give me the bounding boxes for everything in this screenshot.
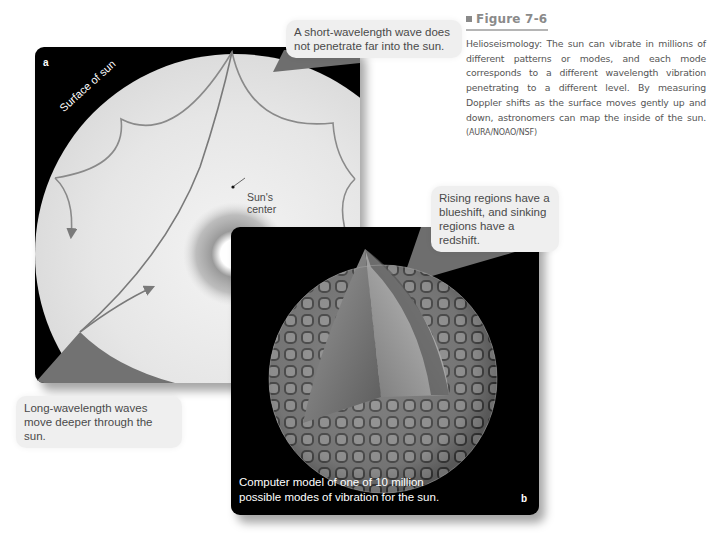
callout-long-wavelength: Long-wavelength waves move deeper throug…	[16, 396, 182, 448]
square-bullet-icon	[466, 16, 472, 22]
figure-number-label: Figure 7-6	[476, 12, 547, 26]
callout-short-wavelength-line1: A short-wavelength wave does	[294, 25, 454, 39]
panel-b-vibration-model: Computer model of one of 10 million poss…	[231, 227, 539, 515]
model-caption-line1: Computer model of one of 10 million	[239, 475, 439, 490]
panel-b-letter: b	[521, 493, 527, 504]
sun-vibration-sphere	[231, 227, 539, 515]
callout-short-wavelength-line2: not penetrate far into the sun.	[294, 39, 454, 53]
figure-caption-block: Figure 7-6 Helioseismology: The sun can …	[466, 12, 706, 141]
panel-a-letter: a	[43, 57, 49, 68]
sun-center-label: Sun's center	[247, 191, 276, 215]
figure-caption-text: Helioseismology: The sun can vibrate in …	[466, 37, 706, 141]
callout-long-wavelength-line1: Long-wavelength waves	[24, 401, 174, 415]
callout-doppler-line3: regions have a redshift.	[439, 219, 551, 247]
sun-center-label-line1: Sun's	[247, 191, 276, 203]
model-caption-line2: possible modes of vibration for the sun.	[239, 490, 439, 505]
figure-title-rule	[466, 29, 548, 31]
callout-doppler-line2: blueshift, and sinking	[439, 205, 551, 219]
caption-body: Helioseismology: The sun can vibrate in …	[466, 38, 706, 123]
callout-doppler-shift: Rising regions have a blueshift, and sin…	[431, 186, 559, 252]
sun-center-label-line2: center	[247, 203, 276, 215]
callout-doppler-line1: Rising regions have a	[439, 191, 551, 205]
model-caption: Computer model of one of 10 million poss…	[239, 475, 439, 505]
figure-number: Figure 7-6	[466, 12, 706, 26]
callout-long-wavelength-line2: move deeper through the sun.	[24, 415, 174, 443]
callout-short-wavelength: A short-wavelength wave does not penetra…	[286, 20, 462, 58]
caption-credit: (AURA/NOAO/NSF)	[466, 128, 537, 137]
